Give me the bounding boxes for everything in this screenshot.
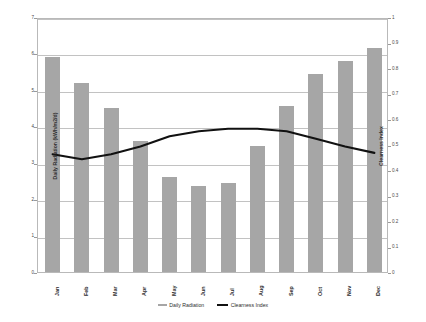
y-tick-label-right: 1 bbox=[392, 16, 422, 21]
y-tick-mark-right bbox=[388, 248, 391, 249]
y-tick-label-right: 0.4 bbox=[392, 169, 422, 174]
y-tick-mark-right bbox=[388, 120, 391, 121]
y-tick-label-right: 0.6 bbox=[392, 118, 422, 123]
y-tick-mark-left bbox=[34, 164, 37, 165]
y-tick-label-left: 3 bbox=[22, 161, 34, 166]
y-tick-label-left: 0 bbox=[22, 271, 34, 276]
y-tick-mark-left bbox=[34, 54, 37, 55]
y-tick-mark-left bbox=[34, 18, 37, 19]
y-tick-label-right: 0.8 bbox=[392, 67, 422, 72]
y-tick-label-right: 0 bbox=[392, 271, 422, 276]
y-tick-mark-left bbox=[34, 273, 37, 274]
y-tick-mark-right bbox=[388, 222, 391, 223]
y-axis-title-right: Clearness Index bbox=[378, 126, 384, 166]
line-swatch-icon bbox=[217, 304, 228, 306]
x-tick-label-oct: Oct bbox=[317, 287, 323, 296]
y-tick-label-left: 1 bbox=[22, 234, 34, 239]
legend-item-daily-radiation: Daily Radiation bbox=[158, 302, 204, 308]
y-tick-mark-right bbox=[388, 44, 391, 45]
line-series-clearness-index bbox=[38, 19, 387, 272]
x-tick-label-nov: Nov bbox=[346, 286, 352, 296]
legend-label-daily-radiation: Daily Radiation bbox=[169, 302, 204, 308]
y-axis-title-left: Daily Radiation (kWh/m2/d) bbox=[52, 112, 58, 179]
y-tick-mark-right bbox=[388, 197, 391, 198]
x-tick-label-aug: Aug bbox=[258, 286, 264, 296]
x-axis-labels: JanFebMarAprMayJunJulAugSepOctNovDec bbox=[37, 276, 388, 300]
y-tick-label-left: 5 bbox=[22, 89, 34, 94]
y-tick-label-left: 2 bbox=[22, 198, 34, 203]
x-tick-label-jun: Jun bbox=[200, 286, 206, 296]
y-tick-mark-left bbox=[34, 200, 37, 201]
legend-item-clearness-index: Clearness Index bbox=[217, 302, 268, 308]
legend-label-clearness-index: Clearness Index bbox=[231, 302, 269, 308]
y-tick-mark-right bbox=[388, 69, 391, 70]
x-tick-label-dec: Dec bbox=[375, 286, 381, 296]
x-tick-label-feb: Feb bbox=[83, 286, 89, 296]
y-tick-label-right: 0.2 bbox=[392, 220, 422, 225]
y-tick-label-right: 0.9 bbox=[392, 41, 422, 46]
y-tick-mark-left bbox=[34, 127, 37, 128]
y-tick-mark-left bbox=[34, 91, 37, 92]
y-tick-mark-right bbox=[388, 171, 391, 172]
y-tick-mark-right bbox=[388, 146, 391, 147]
x-tick-label-apr: Apr bbox=[141, 287, 147, 296]
x-tick-label-mar: Mar bbox=[112, 286, 118, 296]
y-tick-label-right: 0.7 bbox=[392, 92, 422, 97]
clearness-index-polyline bbox=[38, 19, 389, 274]
y-tick-mark-right bbox=[388, 95, 391, 96]
plot-area: Daily Radiation (kWh/m2/d) Clearness Ind… bbox=[37, 18, 388, 273]
y-tick-mark-left bbox=[34, 237, 37, 238]
y-tick-mark-right bbox=[388, 273, 391, 274]
x-tick-label-may: May bbox=[171, 286, 177, 297]
y-tick-label-right: 0.5 bbox=[392, 143, 422, 148]
x-tick-label-sep: Sep bbox=[288, 286, 294, 296]
chart-legend: Daily Radiation Clearness Index bbox=[0, 302, 426, 308]
y-tick-label-left: 7 bbox=[22, 16, 34, 21]
y-tick-label-left: 6 bbox=[22, 52, 34, 57]
bar-swatch-icon bbox=[158, 304, 167, 306]
y-tick-mark-right bbox=[388, 18, 391, 19]
y-tick-label-left: 4 bbox=[22, 125, 34, 130]
y-tick-label-right: 0.1 bbox=[392, 245, 422, 250]
chart-container: Daily Radiation (kWh/m2/d) Clearness Ind… bbox=[0, 0, 426, 322]
x-tick-label-jul: Jul bbox=[229, 288, 235, 296]
y-tick-label-right: 0.3 bbox=[392, 194, 422, 199]
x-tick-label-jan: Jan bbox=[54, 287, 60, 296]
